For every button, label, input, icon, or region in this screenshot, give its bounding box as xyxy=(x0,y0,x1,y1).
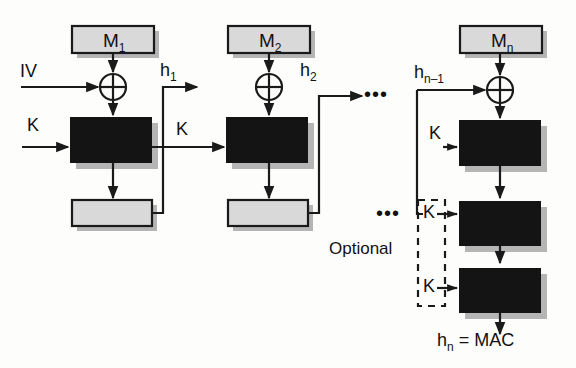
diagram-svg xyxy=(0,0,576,368)
cipher-block-n xyxy=(459,120,547,172)
output-block-1 xyxy=(72,200,157,231)
iv-label: IV xyxy=(20,62,37,80)
feedback-path-h2 xyxy=(308,96,362,213)
output-block-2 xyxy=(228,200,313,231)
ellipsis-optional: ••• xyxy=(376,203,400,223)
cipher-block-2 xyxy=(226,117,314,169)
hn-1-label: hn–1 xyxy=(414,63,444,85)
xor-gate-2 xyxy=(256,74,282,100)
optional-cipher-block-2 xyxy=(459,268,547,319)
message-block-mn-label: Mn xyxy=(491,31,514,54)
cipher-block-1 xyxy=(70,117,158,169)
bus-hn1-down xyxy=(417,90,423,214)
h1-label: h1 xyxy=(160,61,177,83)
ellipsis-middle: ••• xyxy=(364,84,388,104)
k-optional-1-label: K xyxy=(423,203,435,221)
mac-output-label: hn = MAC xyxy=(437,331,514,353)
h2-label: h2 xyxy=(300,61,317,83)
diagram-canvas: M1 M2 Mn IV h1 h2 hn–1 K K K K K ••• •••… xyxy=(0,0,576,368)
k-stage-2-label: K xyxy=(176,120,188,138)
xor-gate-n xyxy=(487,77,513,103)
xor-gate-1 xyxy=(100,74,126,100)
k-optional-2-label: K xyxy=(423,277,435,295)
k-stage-n-label: K xyxy=(429,124,441,142)
feedback-path-h1 xyxy=(152,87,197,213)
message-block-m2-label: M2 xyxy=(259,31,282,54)
optional-label: Optional xyxy=(329,240,392,257)
k-stage-1-label: K xyxy=(27,116,39,134)
optional-cipher-block-1 xyxy=(459,201,547,252)
message-block-m1-label: M1 xyxy=(103,31,126,54)
